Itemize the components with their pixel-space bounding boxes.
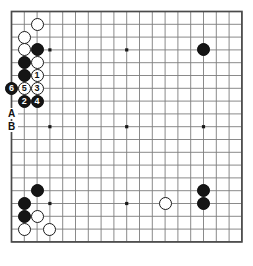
numbered-stone-white[interactable]: 1	[31, 69, 44, 82]
stone-black[interactable]	[18, 210, 31, 223]
point-label-b[interactable]: B	[6, 121, 18, 132]
numbered-stone-white[interactable]: 5	[18, 82, 31, 95]
go-board-grid[interactable]	[0, 0, 253, 266]
stone-black[interactable]	[18, 69, 31, 82]
stone-white[interactable]	[18, 31, 31, 44]
stone-black[interactable]	[197, 197, 210, 210]
stone-black[interactable]	[18, 197, 31, 210]
go-diagram: 165324AB	[0, 0, 253, 266]
star-point	[125, 48, 128, 51]
numbered-stone-black[interactable]: 4	[31, 95, 44, 108]
star-point	[48, 202, 51, 205]
star-point	[125, 202, 128, 205]
stone-white[interactable]	[31, 210, 44, 223]
stone-white[interactable]	[31, 56, 44, 69]
star-point	[125, 125, 128, 128]
star-point	[202, 125, 205, 128]
stone-white[interactable]	[18, 223, 31, 236]
stone-white[interactable]	[159, 197, 172, 210]
point-label-a[interactable]: A	[6, 108, 18, 119]
stone-black[interactable]	[31, 184, 44, 197]
star-point	[48, 48, 51, 51]
numbered-stone-black[interactable]: 6	[5, 82, 18, 95]
star-point	[48, 125, 51, 128]
numbered-stone-white[interactable]: 3	[31, 82, 44, 95]
stone-white[interactable]	[31, 18, 44, 31]
numbered-stone-black[interactable]: 2	[18, 95, 31, 108]
